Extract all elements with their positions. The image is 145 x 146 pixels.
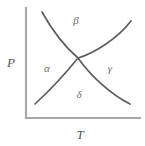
phase-diagram-canvas: α β γ δ P T bbox=[0, 0, 145, 146]
phase-diagram-figure: α β γ δ P T bbox=[0, 0, 145, 146]
boundary-alpha-delta-curve bbox=[35, 58, 78, 104]
boundary-beta-gamma-curve bbox=[78, 21, 131, 58]
region-label-delta: δ bbox=[76, 88, 82, 100]
pressure-axis-label: P bbox=[6, 55, 15, 70]
region-label-alpha: α bbox=[44, 62, 50, 74]
region-label-gamma: γ bbox=[108, 62, 113, 74]
temperature-axis-label: T bbox=[76, 127, 84, 142]
boundary-gamma-delta-curve bbox=[78, 58, 130, 104]
region-label-beta: β bbox=[72, 14, 79, 26]
